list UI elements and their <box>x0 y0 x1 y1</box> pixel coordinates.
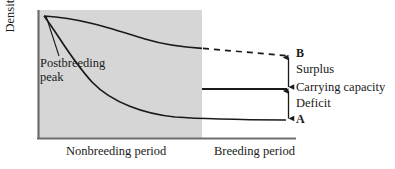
curve-endpoint-label-b: B <box>296 47 304 60</box>
annotation-postbreeding-peak: Postbreeding peak <box>40 57 126 84</box>
curve-endpoint-label-a: A <box>296 113 305 126</box>
x-axis-label-breeding-period: Breeding period <box>214 145 295 159</box>
x-axis-label-nonbreeding-period: Nonbreeding period <box>66 145 166 159</box>
bracket-label-deficit: Deficit <box>296 97 331 111</box>
bracket-label-surplus: Surplus <box>296 63 334 77</box>
figure-container: Density Nonbreeding period Breeding peri… <box>0 0 395 169</box>
y-axis-label: Density <box>4 0 18 48</box>
curve-b-dashed <box>203 48 286 55</box>
line-label-carrying-capacity: Carrying capacity <box>296 81 385 95</box>
